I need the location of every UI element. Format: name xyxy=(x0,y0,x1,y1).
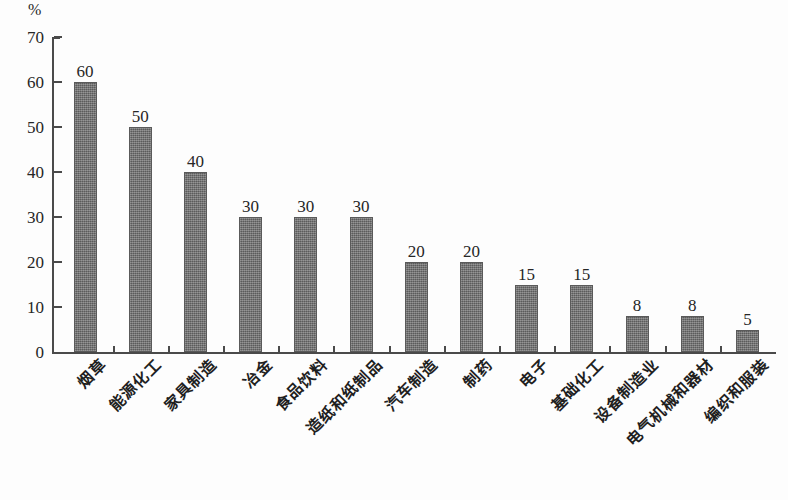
bar-value-label: 40 xyxy=(187,153,204,170)
bar-value-label: 30 xyxy=(242,198,259,215)
y-axis-tick-label: 20 xyxy=(27,254,44,271)
bar-value-label: 20 xyxy=(408,243,425,260)
y-axis-tick-label: 70 xyxy=(27,29,44,46)
y-axis-tick xyxy=(54,216,62,218)
bar-value-label: 15 xyxy=(518,266,535,283)
x-axis-category-label-text: 电子 xyxy=(517,357,551,391)
y-axis-tick xyxy=(54,126,62,128)
bar-value-label: 60 xyxy=(77,63,94,80)
x-axis-category-label-text: 汽车制造 xyxy=(384,357,442,415)
y-axis-tick xyxy=(54,261,62,263)
y-axis-tick xyxy=(54,306,62,308)
y-axis-tick-label: 30 xyxy=(27,209,44,226)
y-axis-unit-label: % xyxy=(28,2,41,18)
y-axis-tick xyxy=(54,81,62,83)
bar-value-label: 50 xyxy=(132,108,149,125)
bar-value-label: 20 xyxy=(463,243,480,260)
bar[interactable]: 50 xyxy=(129,127,152,352)
bar-chart: % 010203040506070 6050403030302020151588… xyxy=(0,0,788,500)
bar-value-label: 15 xyxy=(573,266,590,283)
y-axis-tick-label: 0 xyxy=(36,344,45,361)
y-axis-tick-label: 10 xyxy=(27,299,44,316)
bar-value-label: 30 xyxy=(297,198,314,215)
x-axis-category-label-text: 家具制造 xyxy=(163,357,221,415)
bar[interactable]: 15 xyxy=(515,285,538,353)
y-axis-tick xyxy=(54,36,62,38)
bar[interactable]: 15 xyxy=(570,285,593,353)
bar[interactable]: 60 xyxy=(74,82,97,352)
x-axis-category-label-text: 烟草 xyxy=(76,357,110,391)
bar[interactable]: 30 xyxy=(294,217,317,352)
plot-area: 010203040506070 60504030303020201515885 xyxy=(52,37,776,352)
bar-value-label: 30 xyxy=(353,198,370,215)
x-axis-category-label-text: 能源化工 xyxy=(108,357,166,415)
x-axis-category-label-text: 制药 xyxy=(462,357,496,391)
y-axis-tick-label: 50 xyxy=(27,119,44,136)
y-axis-tick xyxy=(54,171,62,173)
x-axis-category-label-text: 冶金 xyxy=(241,357,275,391)
y-axis-tick-label: 60 xyxy=(27,74,44,91)
y-axis-tick-label: 40 xyxy=(27,164,44,181)
